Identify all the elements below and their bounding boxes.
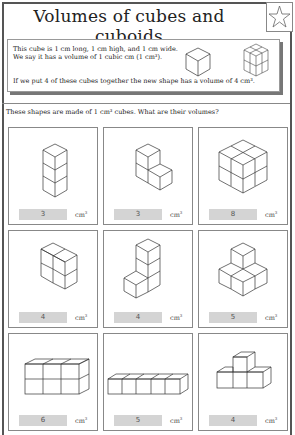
question-text: These shapes are made of 1 cm³ cubes. Wh… — [6, 108, 219, 116]
shape-card-4: 4 cm3 — [8, 230, 98, 328]
unit-label: cm3 — [170, 210, 182, 219]
unit-label: cm3 — [75, 416, 87, 425]
unit-label: cm3 — [75, 210, 87, 219]
unit-label: cm3 — [170, 416, 182, 425]
shape-card-2: 3 cm3 — [103, 127, 193, 225]
answer-field[interactable]: 4 — [114, 312, 162, 323]
answer-field[interactable]: 8 — [209, 209, 257, 220]
answer-field[interactable]: 6 — [19, 415, 67, 426]
answer-field[interactable]: 3 — [114, 209, 162, 220]
tower-with-step-icon — [104, 231, 194, 311]
answer-field[interactable]: 5 — [209, 312, 257, 323]
unit-label: cm3 — [265, 313, 277, 322]
tower-3-cubes-icon — [9, 128, 99, 208]
answer-field[interactable]: 5 — [114, 415, 162, 426]
shape-card-1: 3 cm3 — [8, 127, 98, 225]
unit-label: cm3 — [265, 416, 277, 425]
t-shape-4-cubes-icon — [199, 334, 289, 414]
l-shape-3-cubes-icon — [104, 128, 194, 208]
row-5-cubes-icon — [104, 334, 194, 414]
shape-card-5: 4 cm3 — [103, 230, 193, 328]
star-outline-icon — [267, 3, 292, 31]
answer-field[interactable]: 3 — [19, 209, 67, 220]
four-cube-icon — [244, 44, 268, 76]
shape-card-8: 5 cm3 — [103, 333, 193, 431]
unit-label: cm3 — [170, 313, 182, 322]
answer-field[interactable]: 4 — [209, 415, 257, 426]
cube-2x2x2-icon — [199, 128, 289, 208]
block-2x1x2-icon — [9, 231, 99, 311]
shape-card-6: 5 cm3 — [198, 230, 288, 328]
shape-card-3: 8 cm3 — [198, 127, 288, 225]
cuboid-3x1x2-icon — [9, 334, 99, 414]
unit-label: cm3 — [265, 210, 277, 219]
shape-card-7: 6 cm3 — [8, 333, 98, 431]
shape-card-9: 4 cm3 — [198, 333, 288, 431]
section-divider — [2, 103, 290, 104]
star-badge — [266, 2, 293, 32]
answer-field[interactable]: 4 — [19, 312, 67, 323]
pyramid-5-cubes-icon — [199, 231, 289, 311]
intro-box: This cube is 1 cm long, 1 cm high, and 1… — [7, 39, 280, 92]
unit-label: cm3 — [75, 313, 87, 322]
single-cube-icon — [186, 48, 210, 76]
intro-cube-illustrations — [8, 40, 281, 93]
